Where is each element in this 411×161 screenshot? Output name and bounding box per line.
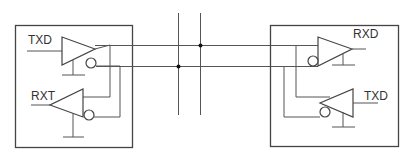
left-lower-wiring bbox=[94, 66, 120, 117]
right-lower-wiring bbox=[284, 67, 320, 118]
right-driver: TXD bbox=[320, 89, 388, 127]
junction-dot-lower bbox=[177, 65, 181, 69]
junction-dot-upper bbox=[199, 44, 203, 48]
right-driver-inverting-output bbox=[320, 107, 330, 117]
right-receiver-inverting-input bbox=[308, 56, 318, 66]
left-receiver-inverting-input bbox=[84, 110, 94, 120]
left-driver-label: TXD bbox=[28, 33, 52, 47]
left-node: TXD RXT bbox=[16, 26, 133, 148]
right-node: RXD TXD bbox=[271, 26, 399, 147]
right-receiver-triangle bbox=[318, 37, 352, 66]
left-driver-inverting-output bbox=[86, 58, 96, 68]
right-driver-label: TXD bbox=[364, 89, 388, 103]
right-receiver-label: RXD bbox=[353, 27, 379, 41]
left-receiver-label: RXT bbox=[31, 89, 56, 103]
transceiver-diagram: TXD RXT bbox=[0, 0, 411, 161]
left-receiver: RXT bbox=[31, 89, 94, 137]
bus bbox=[95, 13, 318, 115]
left-driver: TXD bbox=[27, 33, 96, 75]
right-receiver: RXD bbox=[308, 27, 379, 66]
